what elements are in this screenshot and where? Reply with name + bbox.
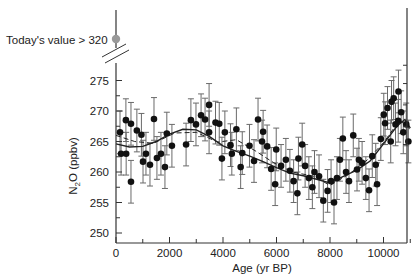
data-point [255,116,262,123]
data-point [206,102,213,109]
data-point [340,135,347,142]
data-point [143,150,150,157]
data-point [387,138,394,145]
data-point [405,138,412,145]
data-point [400,129,407,136]
data-point [278,163,285,170]
data-point [233,126,240,133]
y-axis-label: N2O (ppbv) [67,137,82,195]
data-point [169,142,176,149]
svg-text:N2O (ppbv): N2O (ppbv) [67,137,82,195]
y-tick-label: 250 [90,227,109,239]
data-point [398,109,405,116]
data-point [183,141,190,148]
data-point [128,121,135,128]
data-point [259,138,266,145]
data-point [290,178,297,185]
y-tick-label: 270 [90,105,109,117]
today-value-marker [112,35,120,43]
data-point [295,155,302,162]
x-tick-label: 10000 [368,247,400,259]
data-point [306,175,313,182]
y-label-rest: O (ppbv) [67,137,79,182]
y-tick-label: 265 [90,136,109,148]
chart-canvas: 2502552602652702750200040006000800010000… [0,0,414,280]
data-point [222,129,229,136]
data-point [283,157,290,164]
data-point [147,161,154,168]
axis-break-mark [105,50,129,63]
data-point [162,164,169,171]
data-point [346,178,353,185]
x-tick-label: 6000 [264,247,290,259]
data-point [331,199,338,206]
axes [102,8,407,243]
data-point [273,146,280,153]
y-tick-label: 255 [90,197,109,209]
data-point [395,88,402,95]
data-point [138,131,145,138]
data-point [324,188,331,195]
x-tick-label: 4000 [210,247,236,259]
y-label-n: N [67,186,79,194]
data-point [350,132,357,139]
data-point [239,150,246,157]
n2o-scatter-chart: 2502552602652702750200040006000800010000… [0,0,414,280]
data-point [363,175,370,182]
data-point [227,142,234,149]
x-tick-label: 0 [113,247,119,259]
data-point [164,130,171,137]
data-point [229,150,236,157]
data-point [158,150,165,157]
data-point [395,117,402,124]
x-axis-label: Age (yr BP) [232,262,292,274]
data-point [302,163,309,170]
data-point [123,150,130,157]
data-point [216,121,223,128]
data-point [328,178,335,185]
data-point [369,153,376,160]
y-tick-label: 275 [90,75,109,87]
data-point [382,120,389,127]
data-point [264,143,271,150]
data-point [237,164,244,171]
data-point [117,129,124,136]
data-point [354,166,361,173]
data-point [287,167,294,174]
data-point [309,184,316,191]
data-point [151,116,158,123]
data-point [202,116,209,123]
data-point [359,160,366,167]
data-point [337,157,344,164]
x-tick-label: 2000 [157,247,183,259]
data-point [260,128,267,135]
data-point [388,99,395,106]
data-point [334,175,341,182]
data-point [372,161,379,168]
data-point [206,129,213,136]
data-point [294,190,301,197]
data-point [188,117,195,124]
x-tick-label: 8000 [317,247,343,259]
today-value-annotation: Today's value > 320 [6,34,108,46]
data-point [316,173,323,180]
data-point [268,166,275,173]
data-point [219,155,226,162]
data-point [251,158,258,165]
data-point [193,121,200,128]
data-point [299,141,306,148]
data-point [378,136,385,143]
data-point [384,105,391,112]
data-point [140,158,147,165]
data-point [343,169,350,176]
y-tick-label: 260 [90,166,109,178]
data-point [246,142,253,149]
data-point [380,111,387,118]
data-point [128,178,135,185]
data-point [320,197,327,204]
data-point [366,187,373,194]
data-point [272,181,279,188]
data-point [374,181,381,188]
